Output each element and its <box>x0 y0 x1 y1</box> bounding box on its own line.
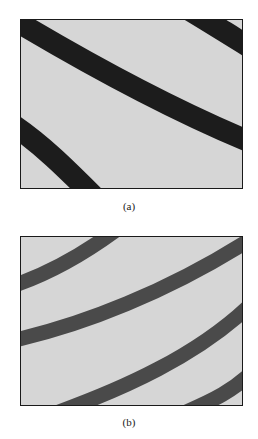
band <box>21 237 242 341</box>
figure-panel-a <box>20 19 243 189</box>
band <box>21 20 242 144</box>
diagonal-bands-image-b <box>21 237 242 405</box>
band <box>180 370 242 405</box>
band <box>21 237 120 286</box>
band <box>189 20 242 50</box>
diagonal-bands-image-a <box>21 20 242 188</box>
figure-panel-b <box>20 236 243 406</box>
band <box>21 124 95 188</box>
caption-a: (a) <box>0 200 258 212</box>
caption-b: (b) <box>0 416 258 428</box>
